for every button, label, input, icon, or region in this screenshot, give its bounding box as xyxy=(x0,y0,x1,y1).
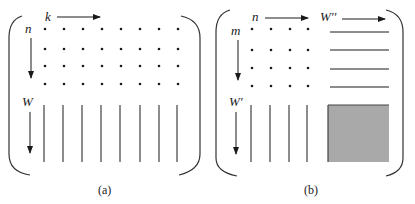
w-double-prime-label: W'' xyxy=(320,9,337,24)
n-label: n xyxy=(25,21,32,36)
caption-b: (b) xyxy=(304,183,318,197)
dot-grid xyxy=(251,28,310,88)
right-bracket xyxy=(179,16,200,175)
dot-grid xyxy=(44,28,180,86)
panel-b: n W'' m W' xyxy=(216,9,403,197)
caption-a: (a) xyxy=(98,183,111,197)
k-label: k xyxy=(45,9,51,24)
panel-a: k n W (a) xyxy=(9,9,200,197)
vertical-lines xyxy=(251,105,307,162)
horizontal-lines xyxy=(330,32,389,87)
shaded-block xyxy=(328,105,389,162)
matrix-diagram: k n W (a) n xyxy=(0,0,415,204)
w-label: W xyxy=(22,94,34,109)
m-label: m xyxy=(231,23,240,38)
n-label: n xyxy=(252,9,259,24)
w-prime-label: W' xyxy=(229,94,243,109)
vertical-lines xyxy=(44,105,177,162)
